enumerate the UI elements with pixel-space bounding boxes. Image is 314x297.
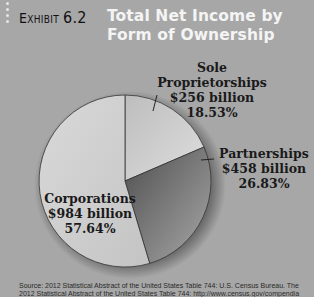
label-corporations: Corporations $984 billion 57.64% <box>38 191 142 236</box>
label-partnerships-percent: 26.83% <box>212 176 314 191</box>
label-sole-name-2: Proprietorships <box>152 75 272 90</box>
label-partnerships-name: Partnerships <box>212 146 314 161</box>
label-corporations-name: Corporations <box>38 191 142 206</box>
label-sole-value: $256 billion <box>152 90 272 105</box>
label-partnerships-value: $458 billion <box>212 161 314 176</box>
label-partnerships: Partnerships $458 billion 26.83% <box>212 146 314 191</box>
source-note: Source: 2012 Statistical Abstract of the… <box>19 282 309 297</box>
label-sole-percent: 18.53% <box>152 105 272 120</box>
label-sole-proprietorships: Sole Proprietorships $256 billion 18.53% <box>152 60 272 120</box>
label-corporations-percent: 57.64% <box>38 221 142 236</box>
label-corporations-value: $984 billion <box>38 206 142 221</box>
label-sole-name-1: Sole <box>152 60 272 75</box>
